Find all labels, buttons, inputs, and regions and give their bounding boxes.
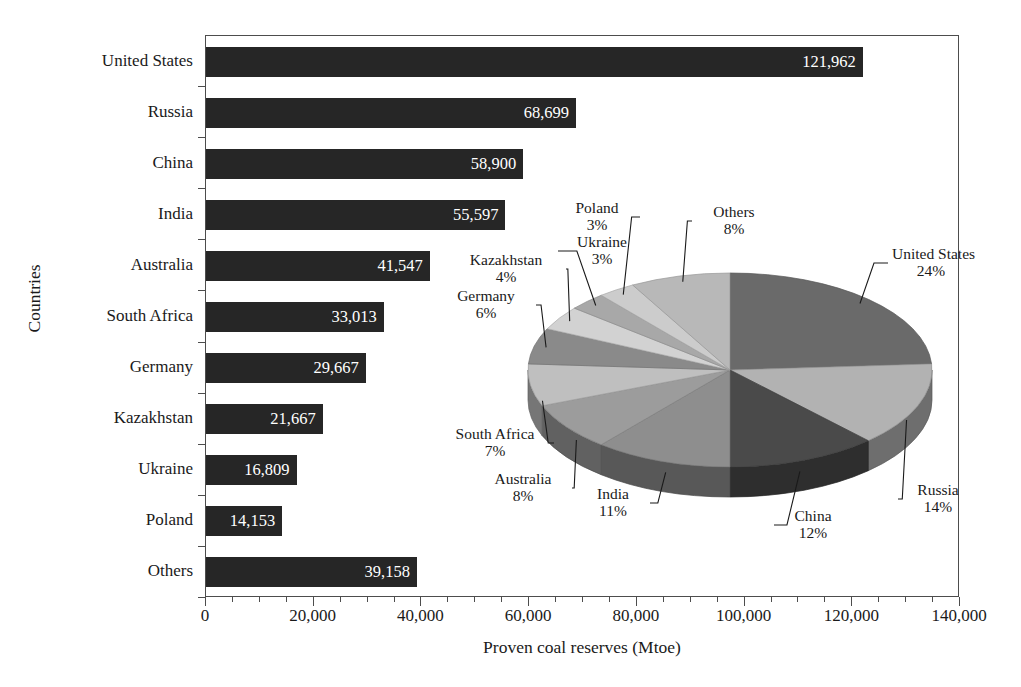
bar-row: 55,597 (206, 200, 960, 230)
bar-row: 68,699 (206, 98, 960, 128)
y-axis-tick-label: Poland (3, 511, 193, 528)
x-axis-tick-label: 120,000 (791, 606, 911, 626)
x-axis-minor-tick (555, 597, 556, 602)
bar-value-label: 58,900 (471, 149, 523, 179)
y-axis-tick-label: Australia (3, 256, 193, 273)
x-axis-major-tick (636, 597, 637, 606)
x-axis-major-tick (420, 597, 421, 606)
x-axis-major-tick (959, 597, 960, 606)
x-axis-minor-tick (582, 597, 583, 602)
bar-row: 121,962 (206, 47, 960, 77)
bar-value-label: 14,153 (230, 506, 282, 536)
x-axis-tick-label: 60,000 (468, 606, 588, 626)
bar-value-label: 21,667 (270, 404, 322, 434)
x-axis-minor-tick (367, 597, 368, 602)
x-axis-major-tick (851, 597, 852, 606)
x-axis-minor-tick (232, 597, 233, 602)
coal-reserves-figure: Countries United StatesRussiaChinaIndiaA… (0, 0, 1021, 687)
bar-row: 29,667 (206, 353, 960, 383)
x-axis-tick-label: 80,000 (576, 606, 696, 626)
x-axis-tick-label: 100,000 (684, 606, 804, 626)
y-axis-tick-label: Germany (3, 358, 193, 375)
bar-row: 14,153 (206, 506, 960, 536)
x-axis-minor-tick (797, 597, 798, 602)
y-axis-tick (198, 188, 205, 189)
bar-value-label: 29,667 (313, 353, 365, 383)
x-axis-minor-tick (905, 597, 906, 602)
bar-value-label: 33,013 (331, 302, 383, 332)
y-axis-title-wrap: Countries (14, 0, 54, 597)
x-axis-tick-label: 140,000 (899, 606, 1019, 626)
x-axis-minor-tick (447, 597, 448, 602)
bar-value-label: 16,809 (244, 455, 296, 485)
x-axis-major-tick (205, 597, 206, 606)
bar-row: 33,013 (206, 302, 960, 332)
bar-value-label: 41,547 (377, 251, 429, 281)
x-axis-minor-tick (932, 597, 933, 602)
x-axis-tick-label: 0 (145, 606, 265, 626)
y-axis-tick (198, 444, 205, 445)
bar-row: 21,667 (206, 404, 960, 434)
bar-value-label: 121,962 (802, 47, 863, 77)
y-axis-tick-label: India (3, 205, 193, 222)
y-axis-tick-label: United States (3, 52, 193, 69)
x-axis-minor-tick (824, 597, 825, 602)
x-axis-minor-tick (717, 597, 718, 602)
x-axis-minor-tick (340, 597, 341, 602)
x-axis-minor-tick (663, 597, 664, 602)
x-axis-minor-tick (259, 597, 260, 602)
x-axis-major-tick (313, 597, 314, 606)
x-axis-minor-tick (609, 597, 610, 602)
bar (206, 98, 576, 128)
x-axis-tick-label: 20,000 (253, 606, 373, 626)
x-axis-minor-tick (690, 597, 691, 602)
y-axis-tick (198, 495, 205, 496)
y-axis-tick-label: Others (3, 562, 193, 579)
bar-row: 58,900 (206, 149, 960, 179)
y-axis-tick (198, 86, 205, 87)
y-axis-tick (198, 239, 205, 240)
x-axis-minor-tick (771, 597, 772, 602)
bar-row: 16,809 (206, 455, 960, 485)
x-axis-minor-tick (474, 597, 475, 602)
y-axis-tick-label: South Africa (3, 307, 193, 324)
bar-plot-area: 121,96268,69958,90055,59741,54733,01329,… (205, 35, 959, 597)
y-axis-tick (198, 137, 205, 138)
x-axis-minor-tick (501, 597, 502, 602)
y-axis-tick-label: China (3, 154, 193, 171)
x-axis-tick-label: 40,000 (360, 606, 480, 626)
bar-value-label: 68,699 (524, 98, 576, 128)
x-axis-title: Proven coal reserves (Mtoe) (205, 637, 959, 658)
y-axis-tick (198, 597, 205, 598)
x-axis-major-tick (528, 597, 529, 606)
x-axis-minor-tick (394, 597, 395, 602)
y-axis-tick-label: Ukraine (3, 460, 193, 477)
y-axis-tick (198, 393, 205, 394)
y-axis-tick-label: Kazakhstan (3, 409, 193, 426)
bar-row: 41,547 (206, 251, 960, 281)
bar-value-label: 39,158 (365, 557, 417, 587)
x-axis-major-tick (744, 597, 745, 606)
bar-value-label: 55,597 (453, 200, 505, 230)
y-axis-tick (198, 290, 205, 291)
y-axis-tick (198, 546, 205, 547)
x-axis-minor-tick (878, 597, 879, 602)
y-axis-tick-label: Russia (3, 103, 193, 120)
bar-row: 39,158 (206, 557, 960, 587)
bar (206, 47, 863, 77)
y-axis-tick (198, 342, 205, 343)
x-axis-minor-tick (286, 597, 287, 602)
